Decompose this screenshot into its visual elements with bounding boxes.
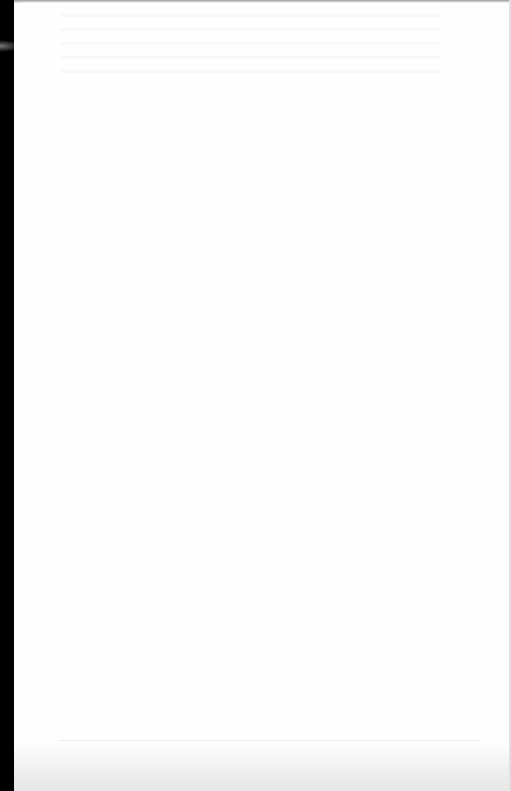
scan-edge-top [14,0,511,3]
scan-bottom-shadow [14,741,511,791]
scan-edge-left [0,0,14,791]
bleed-through-text [60,14,440,74]
blank-page [14,3,509,789]
